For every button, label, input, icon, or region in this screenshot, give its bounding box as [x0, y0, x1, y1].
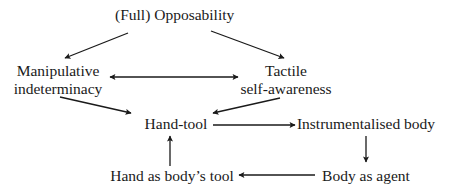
edge-manipulative-to-handtool [60, 97, 131, 113]
node-body-agent-label: Body as agent [320, 167, 412, 185]
node-manipulative-line2: indeterminacy [8, 80, 108, 98]
node-opposability: (Full) Opposability [115, 6, 233, 24]
node-instrumentalised-body: Instrumentalised body [296, 115, 436, 133]
edge-tactile-to-handtool [213, 98, 280, 113]
edge-opposability-to-manipulative [65, 33, 128, 58]
node-tactile-self-awareness: Tactile self-awareness [238, 62, 334, 98]
node-body-as-agent: Body as agent [320, 167, 412, 185]
edge-opposability-to-tactile [211, 31, 284, 58]
node-hand-tool-label: Hand-tool [138, 115, 214, 133]
node-opposability-label: (Full) Opposability [115, 6, 233, 24]
node-tactile-line1: Tactile [238, 62, 334, 80]
node-manipulative-line1: Manipulative [8, 62, 108, 80]
node-hand-tool: Hand-tool [138, 115, 214, 133]
diagram-canvas: (Full) Opposability Manipulative indeter… [0, 0, 454, 195]
node-manipulative-indeterminacy: Manipulative indeterminacy [8, 62, 108, 98]
node-hand-as-bodys-tool: Hand as body’s tool [108, 167, 236, 185]
node-tactile-line2: self-awareness [238, 80, 334, 98]
node-hand-body-tool-label: Hand as body’s tool [108, 167, 236, 185]
node-instrumentalised-label: Instrumentalised body [296, 115, 436, 133]
